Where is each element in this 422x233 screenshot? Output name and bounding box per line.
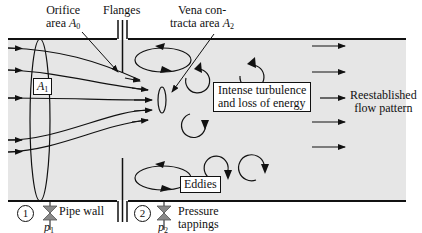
- turbulence-label: Intense turbulence and loss of energy: [213, 82, 311, 112]
- p2-label: p2: [158, 221, 168, 233]
- tap-1-marker: 1: [17, 205, 34, 222]
- p1-label: p1: [44, 221, 54, 233]
- flanges-label: Flanges: [103, 4, 140, 17]
- orifice-label: Orifice area A0: [46, 4, 80, 30]
- tap-2-marker: 2: [134, 205, 151, 222]
- vena-contracta-label: Vena con- tracta area A2: [170, 4, 234, 30]
- pressure-tappings-label: Pressure tappings: [178, 205, 219, 231]
- reestablished-label: Reestablished flow pattern: [350, 89, 417, 115]
- orifice-flow-diagram: [0, 0, 422, 233]
- pipe-wall-label: Pipe wall: [59, 205, 104, 218]
- eddies-label: Eddies: [180, 176, 221, 193]
- a1-label: A1: [33, 78, 52, 95]
